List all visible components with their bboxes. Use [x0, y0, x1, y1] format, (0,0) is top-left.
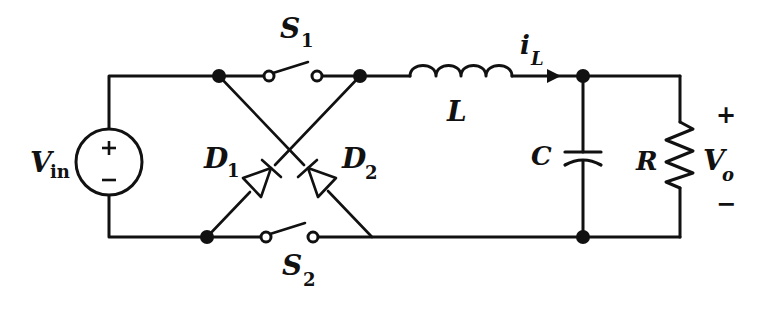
wires	[109, 76, 680, 237]
switch-s2-icon	[261, 223, 318, 242]
current-label: i	[520, 30, 530, 60]
resistor-icon	[666, 122, 693, 188]
d2-subscript: 2	[365, 162, 378, 183]
junction-dot	[576, 69, 590, 83]
junction-dot	[576, 230, 590, 244]
wire-d2-upper	[219, 76, 304, 165]
d1-label: D	[203, 142, 229, 175]
junction-dot	[212, 69, 226, 83]
vin-subscript: in	[50, 161, 70, 182]
inductor-icon	[410, 66, 512, 77]
resistor-label: R	[635, 146, 658, 176]
s2-label: S	[282, 249, 302, 282]
current-subscript: L	[530, 48, 544, 69]
vo-subscript: o	[722, 164, 734, 185]
vo-minus: −	[716, 190, 736, 218]
schematic-svg: V in S 1 S 2 D 1 D 2 L i L C R + V o −	[0, 0, 760, 312]
s1-subscript: 1	[301, 30, 314, 51]
d2-label: D	[341, 142, 367, 175]
junction-dot	[200, 230, 214, 244]
wire-source-top	[109, 76, 219, 128]
current-arrow-icon	[547, 69, 561, 83]
inductor-label: L	[446, 95, 467, 128]
circuit-diagram: V in S 1 S 2 D 1 D 2 L i L C R + V o −	[0, 0, 760, 312]
wire-source-bottom	[109, 196, 207, 237]
junction-dot	[353, 69, 367, 83]
capacitor-label: C	[531, 141, 552, 171]
s1-label: S	[280, 12, 300, 45]
wire-d1-lower	[207, 192, 250, 237]
switch-s1-icon	[264, 62, 322, 81]
voltage-source-icon	[76, 129, 142, 195]
s2-subscript: 2	[303, 269, 316, 290]
vo-plus: +	[716, 101, 736, 129]
wire-d2-lower	[328, 191, 372, 237]
d1-subscript: 1	[227, 160, 240, 181]
